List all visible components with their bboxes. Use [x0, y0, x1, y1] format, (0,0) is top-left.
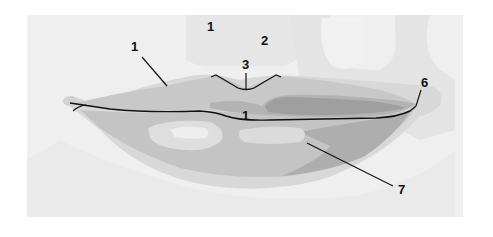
label-6-commissure: 6	[421, 75, 428, 90]
label-7-lower-lip: 7	[398, 182, 405, 197]
lower-lip-highlight-center	[239, 126, 305, 144]
lip-corner-blob	[63, 96, 77, 106]
label-1-stomion: 1	[242, 108, 249, 123]
label-1-upper-lip: 1	[131, 39, 138, 54]
label-1-upper-skin: 1	[207, 19, 214, 34]
lips-anatomy-diagram: 1 2 1 3 1 6 7	[0, 0, 493, 237]
label-3-cupids-bow: 3	[242, 57, 249, 72]
label-2-philtrum: 2	[261, 33, 268, 48]
lower-lip-highlight-left-bright	[170, 126, 209, 138]
